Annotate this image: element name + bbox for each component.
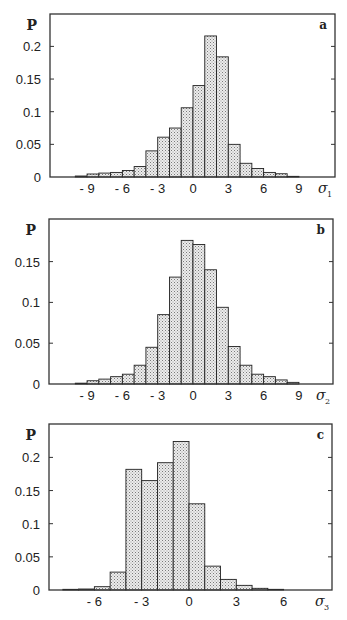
histogram-bar [217,57,229,177]
x-tick-label: - 9 [79,181,94,196]
histogram-bar [111,172,123,177]
histogram-bar [205,566,221,590]
y-tick-label: 0.15 [15,484,40,499]
x-tick-label: 9 [295,388,302,403]
y-tick-label: 0.2 [22,450,40,465]
histogram-bar [134,167,146,177]
histogram-bar [142,481,158,590]
x-tick-label: 3 [225,388,232,403]
histogram-bar [228,144,240,177]
x-tick-label: 3 [225,181,232,196]
histogram-bar [111,377,123,384]
histogram-bar [146,151,158,177]
y-tick-label: 0.05 [15,550,40,565]
panel-letter: a [319,18,327,32]
histogram-panel-a: 00.050.10.150.2Pa- 9- 6- 30369σ1 [16,14,335,199]
histogram-panel-c: 00.050.10.150.2Pc- 6- 3036σ3 [15,424,332,612]
y-tick-label: 0.1 [22,295,40,310]
y-tick-label: 0.15 [16,72,41,87]
figure-caption-fragment [6,607,341,619]
panel-letter: c [317,428,324,442]
y-tick-label: 0.1 [23,105,41,120]
histogram-bar [181,240,193,384]
histogram-bar [193,244,205,384]
histogram-bar [181,108,193,177]
histogram-bar [146,347,158,384]
histogram-panel-b: 00.050.10.15Pb- 9- 6- 30369σ2 [15,219,333,406]
histogram-bar [205,270,217,384]
x-tick-label: - 9 [79,388,94,403]
histogram-bar [217,307,229,384]
y-tick-label: 0 [34,170,41,185]
histogram-bar [110,572,126,590]
x-tick-label: - 6 [115,181,130,196]
histogram-bar [264,377,276,384]
histogram-bar [240,163,252,177]
histogram-bar [221,579,237,590]
y-tick-label: 0.2 [23,39,41,54]
x-tick-label: 6 [260,181,267,196]
histogram-bar [173,441,189,590]
y-tick-label: 0 [33,583,40,598]
histogram-bar [99,379,111,384]
y-axis-label: P [26,17,37,33]
y-tick-label: 0.15 [15,255,40,270]
histogram-bars [75,240,299,384]
histogram-bar [240,365,252,384]
histogram-bar [158,315,170,384]
x-tick-label: 0 [189,388,196,403]
histogram-bar [157,463,173,590]
histogram-bar [236,585,252,590]
x-tick-label: 9 [295,181,302,196]
histogram-bars [75,36,299,177]
x-tick-label: - 3 [150,388,165,403]
histogram-bar [122,170,134,177]
histogram-bar [169,128,181,177]
y-tick-label: 0 [33,377,40,392]
histogram-bar [189,504,205,590]
y-tick-label: 0.05 [15,336,40,351]
panel-letter: b [317,223,325,237]
y-axis-label: P [25,222,36,238]
y-tick-label: 0.05 [16,137,41,152]
histogram-bar [122,374,134,384]
histogram-bars [63,441,284,590]
histogram-bar [205,36,217,177]
histogram-bar [158,137,170,177]
y-tick-label: 0.1 [22,517,40,532]
histogram-bar [126,469,142,590]
y-axis-label: P [25,427,36,443]
histogram-bar [228,346,240,384]
x-axis-label-subscript: 1 [327,190,332,199]
x-tick-label: - 6 [115,388,130,403]
histogram-bar [252,374,264,384]
x-tick-label: 6 [260,388,267,403]
x-tick-label: 0 [189,181,196,196]
histogram-bar [252,169,264,177]
histogram-bar [264,172,276,177]
x-tick-label: - 3 [150,181,165,196]
histogram-bar [193,86,205,177]
histogram-bar [169,277,181,384]
x-axis-label-subscript: 2 [325,397,330,406]
histogram-figure: 00.050.10.150.2Pa- 9- 6- 30369σ100.050.1… [0,0,347,620]
histogram-bar [134,365,146,384]
